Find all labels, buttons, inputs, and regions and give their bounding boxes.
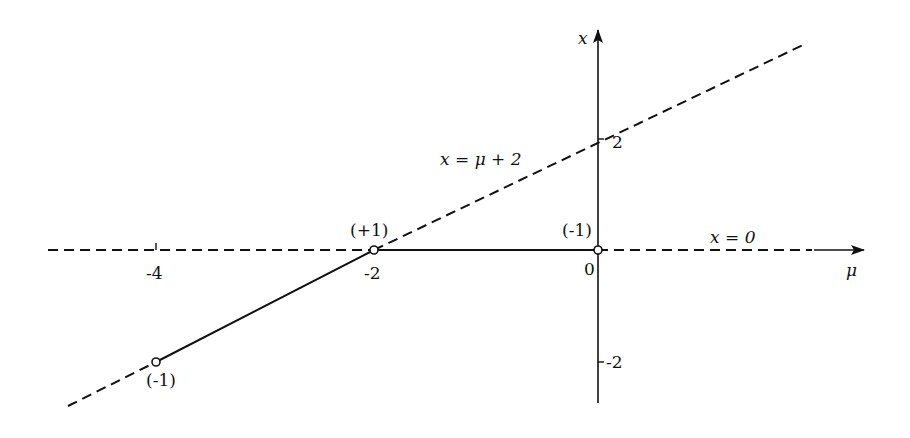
mu-axis: μ <box>48 250 864 280</box>
tick-label-mu-minus-2: -2 <box>364 263 381 283</box>
curve-mu2-dashed-lower <box>68 362 156 406</box>
point-lower <box>152 358 160 366</box>
tick-label-mu-minus-4: -4 <box>146 263 163 283</box>
tick-label-x-minus-2: -2 <box>606 352 623 372</box>
curve-x-equals-mu-plus-2: x = μ + 2 <box>68 44 805 406</box>
curve-x0-label: x = 0 <box>710 227 756 247</box>
point-bifurcation <box>370 246 378 254</box>
x-axis: x <box>578 28 598 403</box>
point-origin <box>594 246 602 254</box>
point-origin-label: (-1) <box>562 220 592 240</box>
curve-mu2-solid-segment <box>156 250 374 362</box>
ticks: -4 -2 0 2 -2 <box>146 132 623 372</box>
point-bifurcation-label: (+1) <box>350 220 388 240</box>
point-lower-label: (-1) <box>146 370 176 390</box>
mu-axis-label: μ <box>846 260 857 280</box>
curve-mu2-label: x = μ + 2 <box>440 149 522 169</box>
x-axis-label: x <box>578 28 588 48</box>
tick-label-mu-zero: 0 <box>584 259 595 279</box>
bifurcation-diagram: μ x -4 -2 0 2 -2 x = 0 x = μ + 2 (+1) (-… <box>0 0 910 438</box>
points: (+1) (-1) (-1) <box>146 220 602 390</box>
